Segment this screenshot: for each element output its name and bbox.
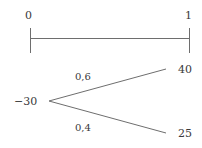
- timeline-start-label: 0: [25, 10, 32, 21]
- branch-upper-outcome: 40: [178, 64, 192, 75]
- timeline-end-label: 1: [185, 10, 192, 21]
- diagram-canvas: [0, 0, 202, 148]
- branch-upper-probability: 0,6: [75, 72, 91, 82]
- tree-root-value: −30: [14, 96, 37, 107]
- tree-branch-lower: [49, 101, 166, 133]
- branch-lower-probability: 0,4: [75, 123, 91, 133]
- branch-lower-outcome: 25: [178, 128, 192, 139]
- tree-branch-upper: [49, 69, 166, 101]
